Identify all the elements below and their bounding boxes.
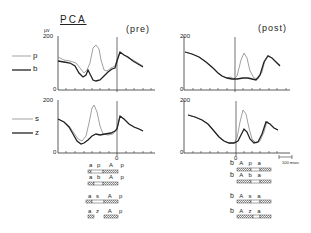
trace-s-pre [58, 105, 143, 141]
figure-graphics [0, 0, 311, 233]
trace-z-pre [58, 116, 143, 144]
panel-pre-top [58, 36, 155, 92]
legend-lines [12, 56, 33, 133]
scale-bar [279, 155, 292, 159]
stimulus-diagrams-post [237, 168, 271, 218]
trace-p-post [185, 52, 280, 79]
panel-post-bottom [184, 100, 290, 156]
trace-b-post [185, 52, 280, 80]
stimulus-diagrams-pre [86, 170, 118, 218]
panel-post-top [184, 36, 290, 92]
panel-pre-bottom [58, 100, 155, 156]
